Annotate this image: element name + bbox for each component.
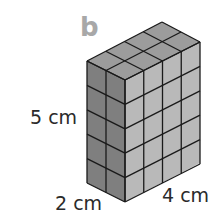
height-label: 5 cm	[30, 108, 77, 127]
width-label: 4 cm	[162, 186, 209, 205]
depth-label: 2 cm	[55, 194, 102, 213]
